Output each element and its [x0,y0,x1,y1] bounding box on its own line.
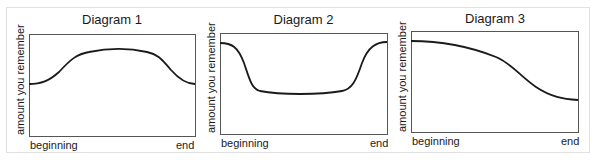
diagram-3-plot [411,31,579,133]
diagram-3-x-start-label: beginning [412,135,460,147]
diagram-2-plot [220,33,388,135]
diagram-1-x-end-label: end [176,139,194,151]
diagram-3-x-end-label: end [561,135,579,147]
memory-curve [220,42,387,94]
plot-box [221,34,388,135]
diagram-1-y-axis-label: amount you remember [14,24,26,135]
diagram-2-y-axis-label: amount you remember [205,22,217,133]
diagram-2-title: Diagram 2 [220,12,387,27]
diagram-3-title: Diagram 3 [411,11,579,26]
memory-curve [29,49,195,84]
diagram-3-y-axis-label: amount you remember [396,21,408,132]
diagram-1-title: Diagram 1 [29,12,195,27]
diagram-1-x-start-label: beginning [30,139,78,151]
plot-box [412,32,579,133]
memory-curve [411,41,578,100]
diagram-2-x-start-label: beginning [221,137,269,149]
diagram-1-plot [29,34,196,137]
diagram-2-x-end-label: end [370,137,388,149]
